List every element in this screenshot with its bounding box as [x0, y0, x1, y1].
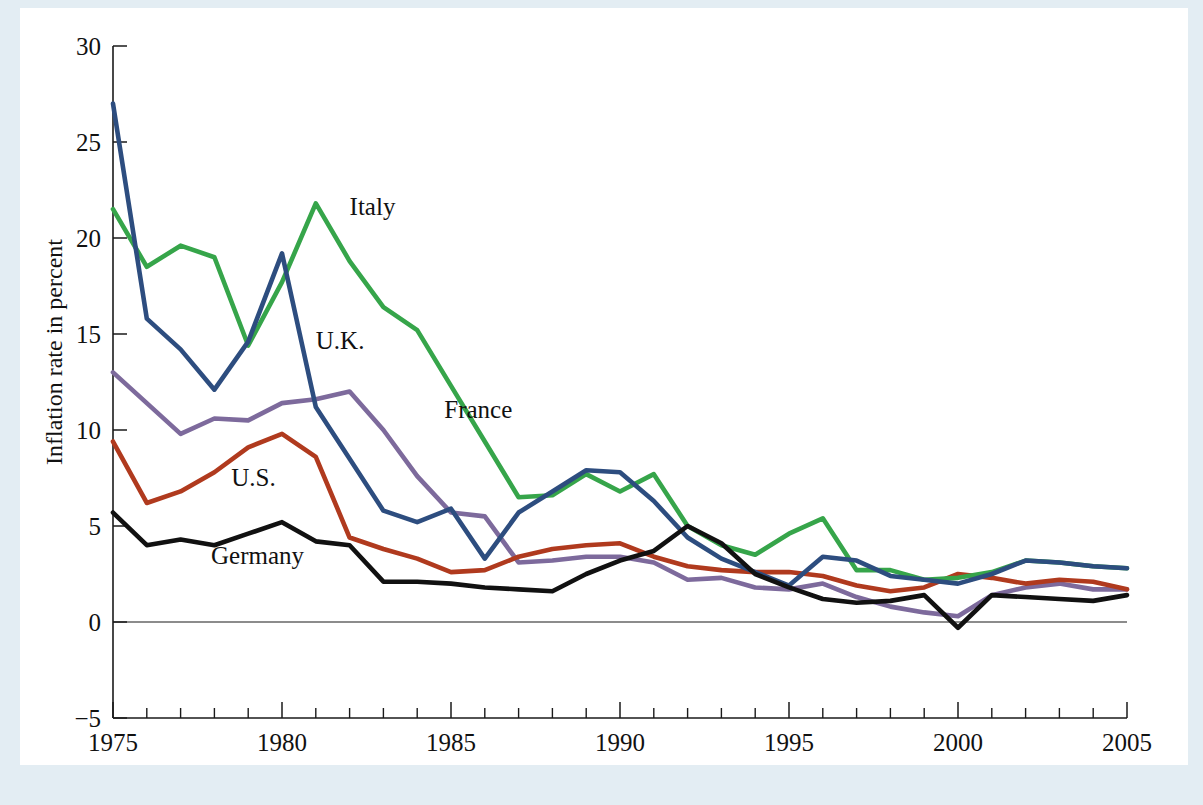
x-tick-label: 2005: [1102, 729, 1152, 756]
series-label-u-s: U.S.: [231, 464, 275, 491]
y-tick-label: 10: [76, 417, 101, 444]
series-label-u-k: U.K.: [316, 327, 365, 354]
series-label-germany: Germany: [211, 542, 305, 569]
x-tick-label: 1995: [764, 729, 814, 756]
figure-frame: −505101520253019751980198519901995200020…: [0, 0, 1203, 805]
y-tick-label: 25: [76, 129, 101, 156]
series-line-germany[interactable]: [113, 513, 1127, 628]
series-line-u-k[interactable]: [113, 104, 1127, 586]
y-axis-title: Inflation rate in percent: [41, 239, 67, 465]
x-tick-label: 2000: [933, 729, 983, 756]
x-tick-label: 1975: [88, 729, 138, 756]
y-tick-label: 20: [76, 225, 101, 252]
y-tick-label: 15: [76, 321, 101, 348]
inflation-rate-line-chart: −505101520253019751980198519901995200020…: [0, 0, 1203, 805]
y-tick-label: 5: [89, 513, 102, 540]
series-label-france: France: [444, 396, 512, 423]
y-tick-label: 0: [89, 609, 102, 636]
y-tick-label: 30: [76, 33, 101, 60]
x-tick-label: 1980: [257, 729, 307, 756]
y-tick-label: −5: [74, 705, 101, 732]
chart-canvas: −505101520253019751980198519901995200020…: [0, 0, 1203, 805]
series-line-italy[interactable]: [113, 203, 1127, 579]
x-tick-label: 1990: [595, 729, 645, 756]
x-tick-label: 1985: [426, 729, 476, 756]
series-label-italy: Italy: [350, 193, 396, 220]
